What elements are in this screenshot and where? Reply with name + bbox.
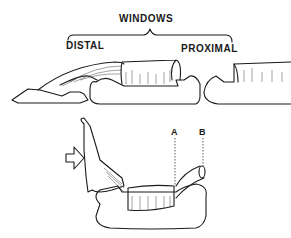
flexed-distal-phalanx	[81, 118, 124, 192]
base-phalanx	[96, 184, 206, 229]
proximal-label: PROXIMAL	[181, 43, 238, 54]
pulley-sheath	[121, 60, 181, 84]
distal-phalanx	[12, 89, 88, 103]
tendon-end	[199, 166, 205, 178]
label-b: B	[199, 127, 206, 137]
label-a: A	[171, 127, 178, 137]
middle-phalanx	[90, 76, 200, 104]
distal-label: DISTAL	[66, 40, 104, 51]
tendon-pulley-illustration	[0, 0, 291, 238]
flexed-tendon	[176, 166, 204, 198]
arrow-icon	[66, 147, 84, 169]
pulley-cylinder	[128, 185, 174, 210]
proximal-phalanx	[204, 62, 291, 104]
windows-label: WINDOWS	[119, 13, 173, 24]
